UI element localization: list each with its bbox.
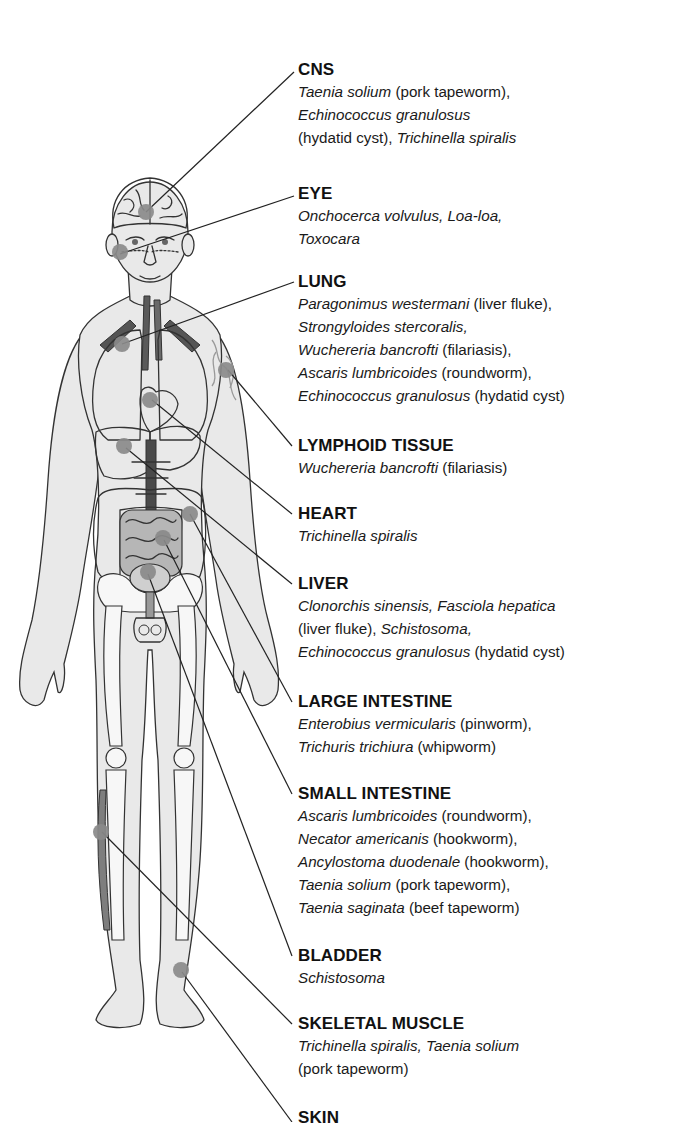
label-body: Paragonimus westermani (liver fluke),Str… bbox=[298, 292, 565, 407]
common-name: (roundworm), bbox=[437, 807, 532, 824]
label-heart: HEART Trichinella spiralis bbox=[298, 504, 418, 547]
label-title: LUNG bbox=[298, 272, 565, 292]
dot-lung bbox=[114, 336, 130, 352]
urethra bbox=[146, 592, 154, 618]
label-body: Ascaris lumbricoides (roundworm),Necator… bbox=[298, 804, 549, 919]
common-name: (hydatid cyst) bbox=[470, 387, 565, 404]
species-name: Clonorchis sinensis, Fasciola hepatica bbox=[298, 597, 555, 614]
label-title: SKIN bbox=[298, 1108, 339, 1127]
right-ear bbox=[182, 234, 194, 256]
species-name: Ascaris lumbricoides bbox=[298, 807, 437, 824]
label-bladder: BLADDER Schistosoma bbox=[298, 946, 385, 989]
label-body: Taenia solium (pork tapeworm),Echinococc… bbox=[298, 80, 516, 149]
label-body: Clonorchis sinensis, Fasciola hepatica(l… bbox=[298, 594, 565, 663]
label-title: EYE bbox=[298, 184, 502, 204]
common-name: (pork tapeworm) bbox=[298, 1060, 409, 1077]
label-title: CNS bbox=[298, 60, 516, 80]
species-name: Ascaris lumbricoides bbox=[298, 364, 437, 381]
label-line: Clonorchis sinensis, Fasciola hepatica bbox=[298, 594, 565, 617]
label-title: BLADDER bbox=[298, 946, 385, 966]
label-title: LARGE INTESTINE bbox=[298, 692, 532, 712]
label-title: SKELETAL MUSCLE bbox=[298, 1014, 519, 1034]
species-name: Wuchereria bancrofti bbox=[298, 341, 438, 358]
dot-skin bbox=[173, 962, 189, 978]
label-body: Enterobius vermicularis (pinworm),Trichu… bbox=[298, 712, 532, 758]
common-name: (beef tapeworm) bbox=[405, 899, 520, 916]
common-name: (hydatid cyst) bbox=[470, 643, 565, 660]
leader-skin bbox=[182, 972, 292, 1122]
common-name: (filariasis), bbox=[438, 341, 511, 358]
dot-eye bbox=[112, 244, 128, 260]
common-name: (whipworm) bbox=[413, 738, 496, 755]
label-skeletal-muscle: SKELETAL MUSCLE Trichinella spiralis, Ta… bbox=[298, 1014, 519, 1080]
label-line: Taenia solium (pork tapeworm), bbox=[298, 873, 549, 896]
label-lymphoid-tissue: LYMPHOID TISSUE Wuchereria bancrofti (fi… bbox=[298, 436, 507, 479]
label-body: Onchocerca volvulus, Loa-loa,Toxocara bbox=[298, 204, 502, 250]
label-line: (hydatid cyst), Trichinella spiralis bbox=[298, 126, 516, 149]
label-line: Necator americanis (hookworm), bbox=[298, 827, 549, 850]
species-name: Toxocara bbox=[298, 230, 360, 247]
label-line: (liver fluke), Schistosoma, bbox=[298, 617, 565, 640]
species-name: Echinococcus granulosus bbox=[298, 106, 470, 123]
label-skin: SKIN bbox=[298, 1108, 339, 1127]
species-name: Taenia solium bbox=[298, 83, 391, 100]
label-line: Wuchereria bancrofti (filariasis) bbox=[298, 456, 507, 479]
label-line: Echinococcus granulosus (hydatid cyst) bbox=[298, 640, 565, 663]
dot-skeletal-muscle bbox=[93, 824, 109, 840]
label-line: Wuchereria bancrofti (filariasis), bbox=[298, 338, 565, 361]
label-line: Ancylostoma duodenale (hookworm), bbox=[298, 850, 549, 873]
species-name: Taenia solium bbox=[298, 876, 391, 893]
label-line: Echinococcus granulosus (hydatid cyst) bbox=[298, 384, 565, 407]
label-line: Ascaris lumbricoides (roundworm), bbox=[298, 804, 549, 827]
label-body: Schistosoma bbox=[298, 966, 385, 989]
label-line: Trichuris trichiura (whipworm) bbox=[298, 735, 532, 758]
species-name: Onchocerca volvulus, Loa-loa, bbox=[298, 207, 502, 224]
species-name: Echinococcus granulosus bbox=[298, 387, 470, 404]
species-name: Necator americanis bbox=[298, 830, 429, 847]
label-line: Taenia solium (pork tapeworm), bbox=[298, 80, 516, 103]
common-name: (pork tapeworm), bbox=[391, 83, 510, 100]
species-name: Schistosoma bbox=[298, 969, 385, 986]
label-line: Onchocerca volvulus, Loa-loa, bbox=[298, 204, 502, 227]
label-lung: LUNG Paragonimus westermani (liver fluke… bbox=[298, 272, 565, 407]
common-name: (filariasis) bbox=[438, 459, 507, 476]
label-title: LYMPHOID TISSUE bbox=[298, 436, 507, 456]
common-name: (roundworm), bbox=[437, 364, 532, 381]
label-line: Trichinella spiralis, Taenia solium bbox=[298, 1034, 519, 1057]
species-name: Paragonimus westermani bbox=[298, 295, 469, 312]
label-body: Wuchereria bancrofti (filariasis) bbox=[298, 456, 507, 479]
species-name: Trichinella spiralis bbox=[298, 527, 418, 544]
label-line: Enterobius vermicularis (pinworm), bbox=[298, 712, 532, 735]
common-name: (pork tapeworm), bbox=[391, 876, 510, 893]
dot-small-intestine bbox=[155, 530, 171, 546]
species-name: Trichinella spiralis bbox=[397, 129, 517, 146]
species-name: Schistosoma, bbox=[381, 620, 472, 637]
label-line: Toxocara bbox=[298, 227, 502, 250]
dot-heart bbox=[142, 392, 158, 408]
common-name: (liver fluke), bbox=[298, 620, 381, 637]
leader-cns bbox=[146, 72, 294, 212]
label-line: (pork tapeworm) bbox=[298, 1057, 519, 1080]
label-cns: CNS Taenia solium (pork tapeworm),Echino… bbox=[298, 60, 516, 149]
dot-liver bbox=[116, 438, 132, 454]
leg-bones bbox=[104, 606, 196, 940]
species-name: Taenia saginata bbox=[298, 899, 405, 916]
label-title: SMALL INTESTINE bbox=[298, 784, 549, 804]
label-line: Echinococcus granulosus bbox=[298, 103, 516, 126]
label-line: Paragonimus westermani (liver fluke), bbox=[298, 292, 565, 315]
label-line: Ascaris lumbricoides (roundworm), bbox=[298, 361, 565, 384]
common-name: (liver fluke), bbox=[469, 295, 552, 312]
common-name: (hookworm), bbox=[429, 830, 518, 847]
label-line: Schistosoma bbox=[298, 966, 385, 989]
label-small-intestine: SMALL INTESTINE Ascaris lumbricoides (ro… bbox=[298, 784, 549, 919]
species-name: Strongyloides stercoralis, bbox=[298, 318, 468, 335]
species-name: Ancylostoma duodenale bbox=[298, 853, 460, 870]
label-body: Trichinella spiralis bbox=[298, 524, 418, 547]
dot-cns bbox=[138, 204, 154, 220]
label-line: Taenia saginata (beef tapeworm) bbox=[298, 896, 549, 919]
dot-bladder bbox=[140, 564, 156, 580]
dot-lymphoid bbox=[218, 362, 234, 378]
species-name: Trichuris trichiura bbox=[298, 738, 413, 755]
label-large-intestine: LARGE INTESTINE Enterobius vermicularis … bbox=[298, 692, 532, 758]
label-title: LIVER bbox=[298, 574, 565, 594]
